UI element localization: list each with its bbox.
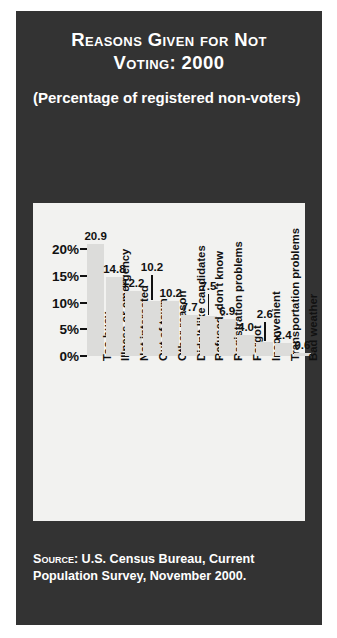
y-axis-tick-mark xyxy=(80,302,87,304)
plot-area: 20%15%10%5%0%20.9Too busy14.8Illness or … xyxy=(33,203,305,521)
chart-title: Reasons Given for Not Voting: 2000 xyxy=(16,11,322,75)
y-axis-tick-mark xyxy=(80,355,87,357)
label-leader-line xyxy=(208,294,210,315)
chart-plot-panel: 20%15%10%5%0%20.9Too busy14.8Illness or … xyxy=(33,203,305,521)
y-axis-tick-label: 15% xyxy=(33,268,79,283)
label-leader-line xyxy=(151,275,153,300)
label-leader-line xyxy=(264,322,266,341)
source-label: Source: xyxy=(33,552,78,566)
y-axis-tick-label: 10% xyxy=(33,295,79,310)
bar-value-label: 10.2 xyxy=(141,261,163,273)
chart-figure: Reasons Given for Not Voting: 2000 (Perc… xyxy=(16,11,322,625)
y-axis-tick-mark xyxy=(80,248,87,250)
y-axis-tick-mark xyxy=(80,328,87,330)
title-line-2: Voting: 2000 xyxy=(32,52,306,75)
y-axis-tick-mark xyxy=(80,275,87,277)
y-axis-tick-label: 20% xyxy=(33,242,79,257)
y-axis-tick-label: 5% xyxy=(33,322,79,337)
title-line-1: Reasons Given for Not xyxy=(32,29,306,52)
y-axis-tick-label: 0% xyxy=(33,349,79,364)
x-axis-category-label: Bad weather xyxy=(307,294,319,361)
chart-subtitle: (Percentage of registered non-voters) xyxy=(16,75,322,107)
source-note: Source: U.S. Census Bureau, Current Popu… xyxy=(33,551,307,585)
bar-value-label: 20.9 xyxy=(84,230,106,242)
